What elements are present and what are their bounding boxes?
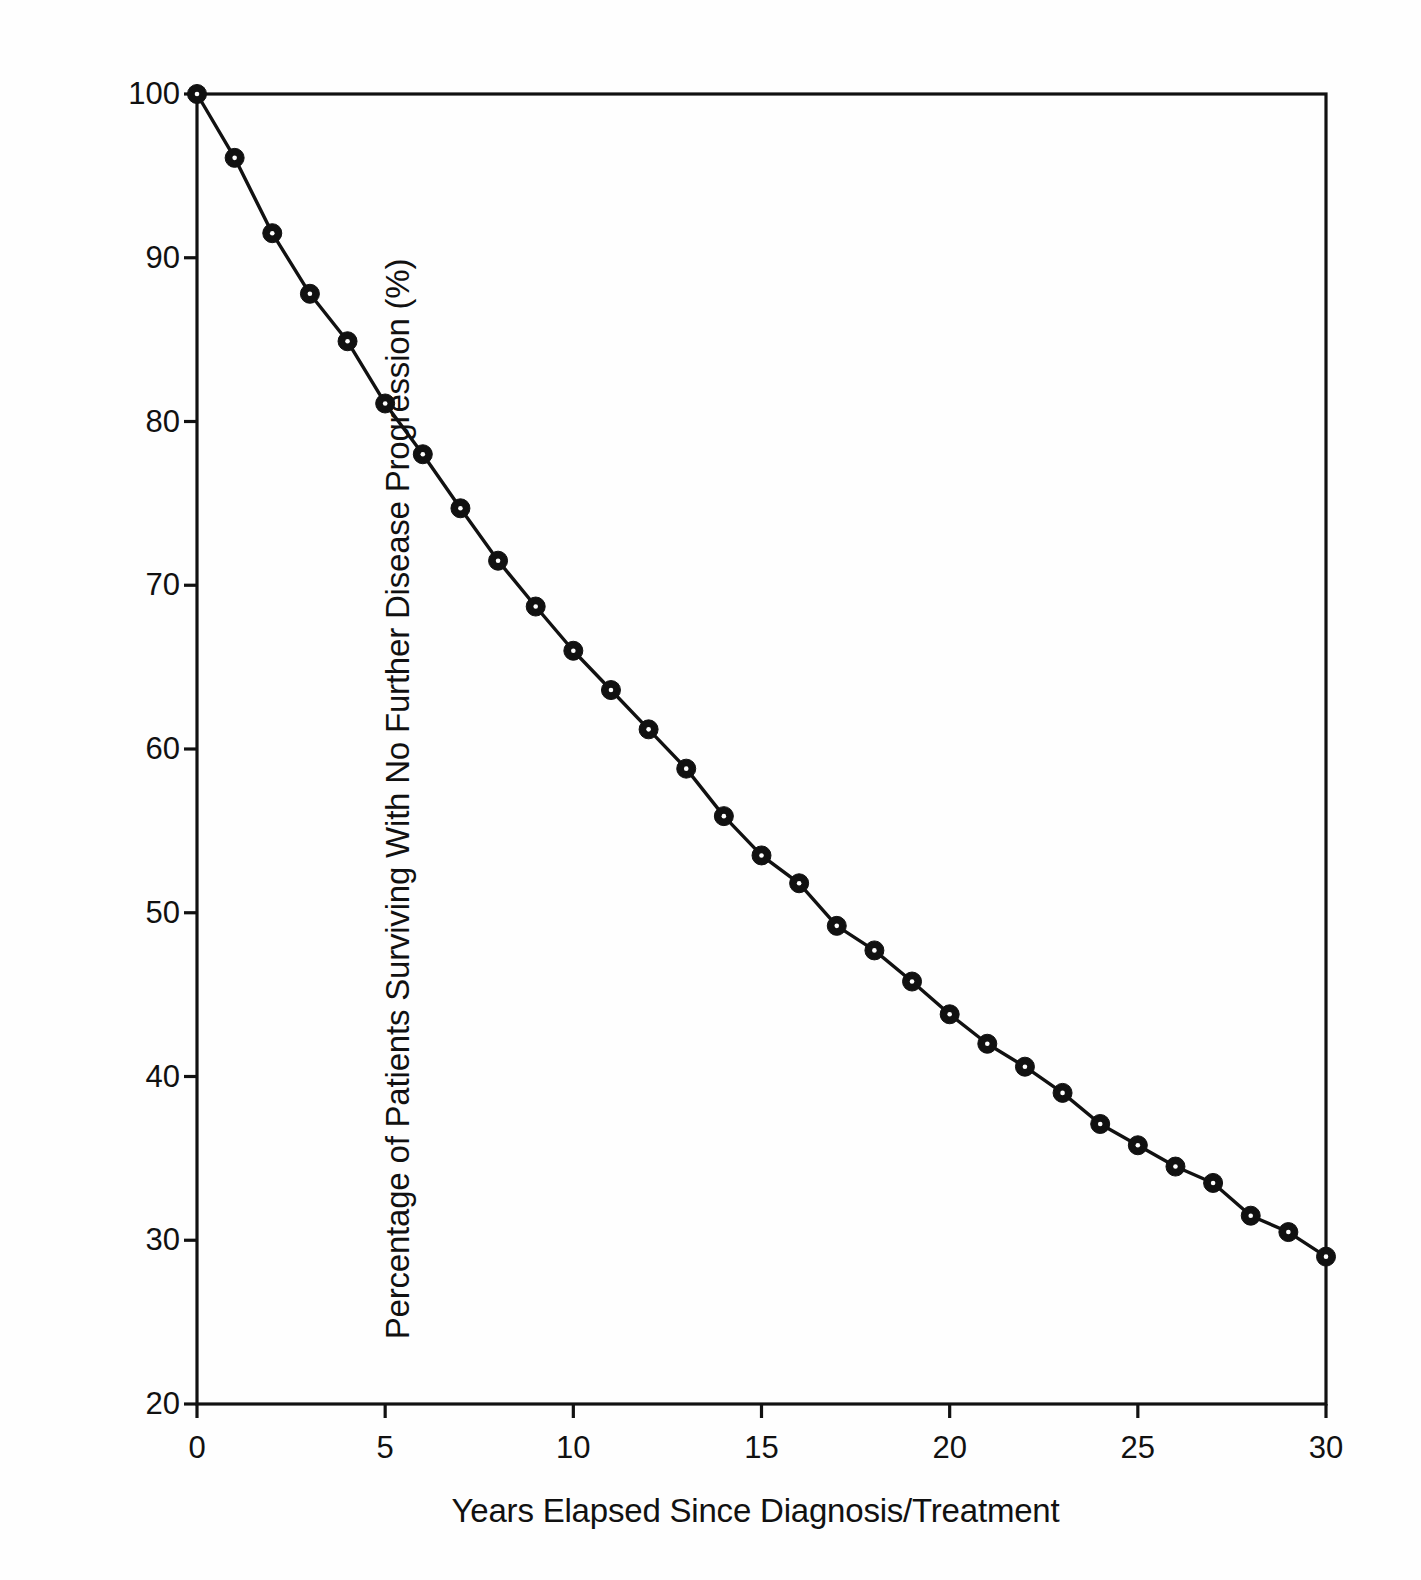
x-tick-label: 25	[1121, 1430, 1155, 1466]
tick-marks	[184, 94, 1326, 1418]
y-tick-label: 70	[95, 567, 180, 603]
y-tick-label: 20	[95, 1386, 180, 1422]
x-tick-label: 20	[932, 1430, 966, 1466]
y-tick-label: 40	[95, 1059, 180, 1095]
figure-root: 2030405060708090100 051015202530 Years E…	[0, 0, 1421, 1580]
data-markers	[188, 85, 1336, 1267]
x-tick-label: 10	[556, 1430, 590, 1466]
chart-canvas	[0, 0, 1421, 1580]
y-tick-label: 90	[95, 240, 180, 276]
x-tick-label: 15	[744, 1430, 778, 1466]
plot-frame	[197, 94, 1326, 1404]
y-tick-label: 60	[95, 731, 180, 767]
x-tick-label: 0	[188, 1430, 205, 1466]
y-tick-label: 30	[95, 1222, 180, 1258]
x-tick-label: 30	[1309, 1430, 1343, 1466]
y-tick-label: 80	[95, 404, 180, 440]
x-axis-title: Years Elapsed Since Diagnosis/Treatment	[0, 1492, 1421, 1530]
y-tick-label: 50	[95, 895, 180, 931]
x-tick-label: 5	[377, 1430, 394, 1466]
data-line	[197, 94, 1326, 1257]
y-tick-label: 100	[95, 76, 180, 112]
